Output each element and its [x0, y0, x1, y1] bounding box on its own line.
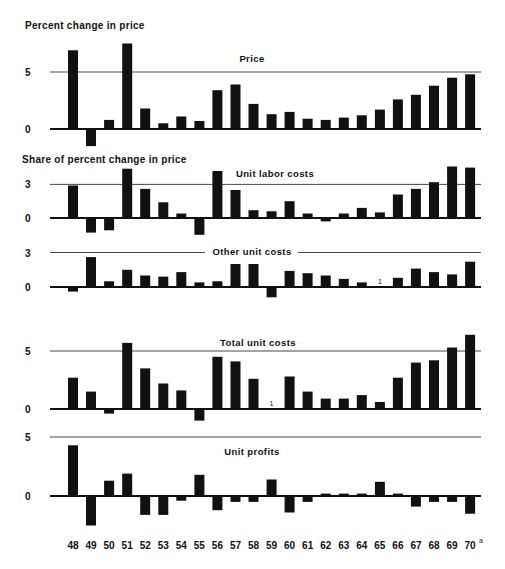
x-tick-label: 60 — [284, 540, 296, 551]
bar — [158, 277, 168, 287]
bar — [104, 481, 114, 496]
bar — [465, 74, 475, 129]
bar — [231, 190, 241, 218]
y-tick-label: 0 — [25, 491, 31, 502]
bar — [122, 270, 132, 287]
bar — [140, 496, 150, 515]
bar — [122, 44, 132, 130]
bar — [285, 271, 295, 287]
chart-figure: Percent change in price Share of percent… — [0, 0, 505, 569]
bar — [339, 399, 349, 409]
bar — [68, 50, 78, 129]
bar — [465, 335, 475, 409]
bar — [393, 99, 403, 129]
bar — [249, 104, 259, 129]
y-tick-label: 5 — [25, 67, 31, 78]
y-tick-label: 0 — [25, 213, 31, 224]
x-tick-label: 52 — [140, 540, 152, 551]
bar — [339, 118, 349, 129]
bar — [393, 378, 403, 409]
bar — [429, 86, 439, 129]
bar — [122, 169, 132, 218]
x-tick-label: 67 — [410, 540, 422, 551]
y-tick-label: 3 — [25, 248, 31, 259]
bar — [86, 129, 96, 146]
x-tick-label: 48 — [67, 540, 79, 551]
panel-price: 05Price — [25, 44, 481, 147]
x-tick-label: 64 — [356, 540, 368, 551]
bar — [86, 257, 96, 287]
bar — [465, 168, 475, 218]
bar — [447, 78, 457, 129]
bar — [212, 357, 222, 409]
chart-panels: 05Price03Unit labor costs03Other unit co… — [25, 44, 481, 526]
bar — [285, 112, 295, 129]
bar — [194, 218, 204, 235]
bar — [86, 392, 96, 409]
x-label-footnote-sup: a — [479, 537, 483, 544]
bar — [158, 202, 168, 218]
bar — [375, 482, 385, 496]
x-axis-labels: 4849505152535455565758596061626364656667… — [67, 537, 483, 551]
bar — [321, 120, 331, 129]
y-tick-label: 3 — [25, 179, 31, 190]
bar — [158, 496, 168, 515]
bar — [267, 287, 277, 297]
bar — [393, 195, 403, 219]
bar — [68, 378, 78, 409]
bar — [194, 121, 204, 129]
y-tick-label: 5 — [25, 346, 31, 357]
bar — [321, 399, 331, 409]
bar — [104, 218, 114, 230]
x-tick-label: 54 — [176, 540, 188, 551]
bar — [303, 392, 313, 409]
x-tick-label: 70 — [465, 540, 477, 551]
bar — [194, 475, 204, 496]
bar — [285, 496, 295, 513]
y-tick-label: 0 — [25, 282, 31, 293]
bar — [357, 115, 367, 129]
bar — [375, 110, 385, 129]
x-tick-label: 50 — [104, 540, 116, 551]
y-tick-label: 5 — [25, 432, 31, 443]
panel-label: Unit profits — [224, 446, 279, 457]
bar — [68, 186, 78, 219]
panel-unit-labor-costs: 03Unit labor costs — [25, 167, 481, 235]
panel-label: Total unit costs — [220, 337, 296, 348]
bar — [429, 182, 439, 218]
panel-label: Other unit costs — [212, 246, 291, 257]
bar — [303, 273, 313, 287]
bar — [231, 264, 241, 287]
bar — [249, 379, 259, 409]
x-tick-label: 53 — [158, 540, 170, 551]
bar — [447, 167, 457, 219]
panel-label: Unit labor costs — [236, 168, 314, 179]
bar — [411, 95, 421, 129]
bar — [447, 274, 457, 287]
bar — [140, 368, 150, 409]
footnote-marker: 1 — [270, 400, 274, 407]
x-tick-label: 56 — [212, 540, 224, 551]
x-tick-label: 66 — [392, 540, 404, 551]
x-tick-label: 62 — [320, 540, 332, 551]
bar — [86, 496, 96, 526]
panel-unit-profits: 05Unit profits — [25, 432, 481, 526]
y-tick-label: 0 — [25, 124, 31, 135]
x-tick-label: 69 — [446, 540, 458, 551]
bar — [465, 496, 475, 514]
x-tick-label: 55 — [194, 540, 206, 551]
x-tick-label: 59 — [266, 540, 278, 551]
x-tick-label: 51 — [122, 540, 134, 551]
bar — [375, 402, 385, 409]
bar — [68, 445, 78, 496]
x-tick-label: 65 — [374, 540, 386, 551]
bar — [212, 90, 222, 129]
bar — [411, 363, 421, 409]
chart-subtitle: Share of percent change in price — [22, 154, 187, 165]
panel-other-unit-costs: 03Other unit costs1 — [25, 246, 481, 297]
chart-title: Percent change in price — [25, 20, 145, 31]
x-tick-label: 61 — [302, 540, 314, 551]
bar — [212, 496, 222, 510]
bar — [465, 262, 475, 287]
bar — [86, 218, 96, 233]
